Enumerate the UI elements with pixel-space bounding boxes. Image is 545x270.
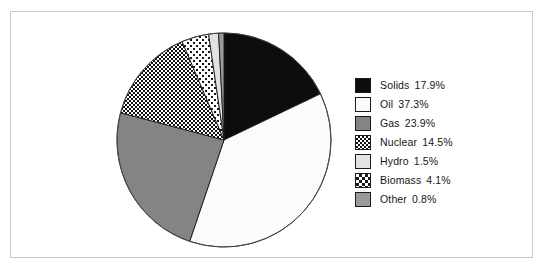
chart-figure: Solids17.9% Oil37.3% Gas23.9% Nuclear14.… <box>0 0 545 270</box>
legend-swatch-oil <box>355 97 371 112</box>
pie-slice-group <box>117 33 331 247</box>
legend-item-solids[interactable]: Solids17.9% <box>355 76 530 95</box>
legend-label-other: Other0.8% <box>380 194 437 205</box>
legend-swatch-solids <box>355 78 371 93</box>
chart-legend: Solids17.9% Oil37.3% Gas23.9% Nuclear14.… <box>355 76 530 209</box>
legend-label-gas: Gas23.9% <box>380 118 435 129</box>
legend-label-biomass: Biomass4.1% <box>380 175 451 186</box>
legend-label-nuclear: Nuclear14.5% <box>380 137 453 148</box>
legend-swatch-hydro <box>355 154 371 169</box>
legend-item-other[interactable]: Other0.8% <box>355 190 530 209</box>
legend-swatch-biomass <box>355 173 371 188</box>
pie-chart <box>115 30 335 252</box>
legend-label-solids: Solids17.9% <box>380 80 445 91</box>
chart-frame: Solids17.9% Oil37.3% Gas23.9% Nuclear14.… <box>10 11 533 258</box>
pie-chart-svg <box>115 30 335 252</box>
legend-swatch-other <box>355 192 371 207</box>
legend-label-oil: Oil37.3% <box>380 99 429 110</box>
legend-swatch-nuclear <box>355 135 371 150</box>
legend-item-nuclear[interactable]: Nuclear14.5% <box>355 133 530 152</box>
legend-swatch-gas <box>355 116 371 131</box>
legend-item-gas[interactable]: Gas23.9% <box>355 114 530 133</box>
legend-label-hydro: Hydro1.5% <box>380 156 438 167</box>
legend-item-biomass[interactable]: Biomass4.1% <box>355 171 530 190</box>
legend-item-oil[interactable]: Oil37.3% <box>355 95 530 114</box>
legend-item-hydro[interactable]: Hydro1.5% <box>355 152 530 171</box>
